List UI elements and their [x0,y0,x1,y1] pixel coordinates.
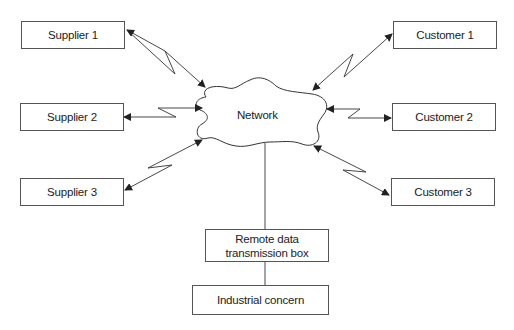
customer-3-link [314,146,389,195]
customer-2-label: Customer 2 [415,110,472,124]
customer-1-link [313,34,392,90]
customer-3-label: Customer 3 [414,185,471,199]
network-label: Network [237,109,278,121]
supplier-1-box: Supplier 1 [21,21,125,49]
customer-2-link [327,109,391,118]
supplier-2-box: Supplier 2 [20,103,124,131]
remote-box-label-line2: transmission box [225,246,308,260]
remote-data-transmission-box: Remote data transmission box [205,229,329,262]
supplier-2-link [124,108,202,117]
supplier-1-link [127,30,205,87]
customer-1-label: Customer 1 [416,28,473,42]
supplier-2-label: Supplier 2 [47,110,97,124]
customer-2-box: Customer 2 [392,103,496,131]
supplier-3-box: Supplier 3 [20,178,124,206]
remote-box-label-line1: Remote data [235,232,299,246]
customer-1-box: Customer 1 [393,21,497,49]
industrial-concern-box: Industrial concern [192,285,329,315]
customer-3-box: Customer 3 [391,178,495,206]
industrial-concern-label: Industrial concern [217,293,304,307]
supplier-3-label: Supplier 3 [47,185,97,199]
diagram-connectors [0,0,514,330]
supplier-3-link [125,140,202,190]
supplier-1-label: Supplier 1 [48,28,98,42]
